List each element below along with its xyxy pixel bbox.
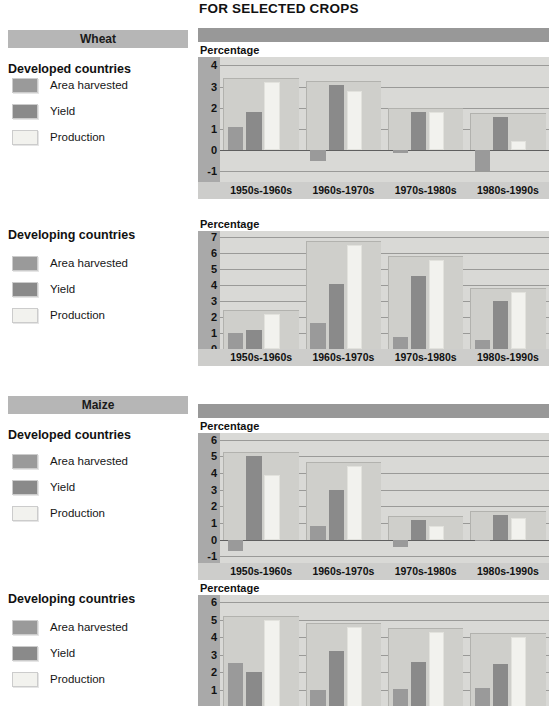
bar-production	[429, 112, 444, 150]
legend-swatch-icon	[12, 646, 38, 661]
bar-area-harvested	[475, 150, 490, 171]
legend-swatch-icon	[12, 672, 38, 687]
country-group-label: Developed countries	[8, 428, 131, 442]
legend-swatch-icon	[12, 454, 38, 469]
legend-swatch-icon	[12, 308, 38, 323]
bar-yield	[246, 456, 261, 539]
x-axis-tick-label: 1970s-1980s	[395, 184, 457, 196]
y-axis-tick-label: 5	[211, 264, 217, 275]
bar-area-harvested	[393, 689, 408, 706]
bar-production	[347, 91, 362, 150]
y-axis-strip: -10123456	[198, 433, 220, 563]
legend-item: Production	[12, 666, 128, 692]
gridline	[220, 237, 549, 238]
chart-block: Percentage-1012341950s-1960s1960s-1970s1…	[198, 28, 549, 199]
legend-label: Production	[50, 507, 105, 519]
y-axis-tick-label: 3	[211, 296, 217, 307]
x-axis-tick-label: 1950s-1960s	[230, 351, 292, 363]
legend-swatch-icon	[12, 506, 38, 521]
bar-production	[264, 314, 279, 349]
y-axis-tick-label: -1	[207, 166, 217, 177]
bar-yield	[493, 301, 508, 349]
bar-production	[429, 632, 444, 706]
bar-production	[511, 518, 526, 540]
x-axis-tick-label: 1970s-1980s	[395, 351, 457, 363]
y-axis-tick-label: 2	[211, 501, 217, 512]
legend-item: Yield	[12, 276, 128, 302]
legend-swatch-icon	[12, 620, 38, 635]
y-axis-title: Percentage	[198, 42, 549, 57]
x-axis-tick-label: 1980s-1990s	[477, 565, 539, 577]
bar-production	[347, 627, 362, 706]
y-axis-title: Percentage	[198, 580, 549, 595]
legend-label: Production	[50, 309, 105, 321]
y-axis-tick-label: 0	[211, 145, 217, 156]
legend-label: Yield	[50, 647, 75, 659]
y-axis-tick-label: 5	[211, 614, 217, 625]
y-axis-tick-label: 1	[211, 328, 217, 339]
x-axis: 1950s-1960s1960s-1970s1970s-1980s1980s-1…	[198, 349, 549, 366]
bar-area-harvested	[310, 526, 325, 540]
plot-area: -10123456	[198, 433, 549, 563]
x-axis-tick-label: 1960s-1970s	[312, 351, 374, 363]
legend-item: Area harvested	[12, 614, 128, 640]
legend-label: Area harvested	[50, 79, 128, 91]
bar-area-harvested	[393, 150, 408, 153]
bar-area-harvested	[310, 323, 325, 349]
x-axis-tick-label: 1980s-1990s	[477, 184, 539, 196]
legend-swatch-icon	[12, 78, 38, 93]
country-group-label: Developing countries	[8, 592, 135, 606]
legend-label: Area harvested	[50, 621, 128, 633]
gridline	[220, 253, 549, 254]
bar-production	[429, 526, 444, 540]
legend-item: Production	[12, 302, 128, 328]
chart-header-bar	[198, 404, 549, 418]
legend: Area harvestedYieldProduction	[12, 250, 128, 328]
bar-area-harvested	[228, 663, 243, 706]
bar-production	[264, 82, 279, 150]
y-axis-tick-label: 6	[211, 248, 217, 259]
legend-label: Yield	[50, 105, 75, 117]
bar-area-harvested	[475, 688, 490, 706]
chart-header-bar	[198, 28, 549, 42]
y-axis-tick-label: 2	[211, 312, 217, 323]
y-axis-tick-label: 0	[211, 344, 217, 350]
y-axis-tick-label: 1	[211, 124, 217, 135]
gridline	[220, 65, 549, 66]
zero-line	[220, 150, 549, 151]
legend-item: Yield	[12, 474, 128, 500]
y-axis-tick-label: 2	[211, 102, 217, 113]
legend-label: Yield	[50, 283, 75, 295]
x-axis-tick-label: 1960s-1970s	[312, 184, 374, 196]
y-axis-tick-label: -1	[207, 551, 217, 562]
bar-area-harvested	[228, 333, 243, 349]
bar-area-harvested	[310, 150, 325, 161]
y-axis-tick-label: 3	[211, 484, 217, 495]
y-axis-tick-label: 4	[211, 60, 217, 71]
x-axis-tick-label: 1960s-1970s	[312, 565, 374, 577]
x-axis-tick-label: 1950s-1960s	[230, 565, 292, 577]
legend-label: Area harvested	[50, 455, 128, 467]
x-axis: 1950s-1960s1960s-1970s1970s-1980s1980s-1…	[198, 182, 549, 199]
gridline	[220, 602, 549, 603]
legend-swatch-icon	[12, 480, 38, 495]
bar-production	[511, 292, 526, 349]
legend-label: Yield	[50, 481, 75, 493]
y-axis-title: Percentage	[198, 216, 549, 231]
chart-block: Percentage123456	[198, 580, 549, 706]
chart-block: Percentage-101234561950s-1960s1960s-1970…	[198, 404, 549, 580]
y-axis-tick-label: 5	[211, 451, 217, 462]
legend-swatch-icon	[12, 282, 38, 297]
crop-band-wheat: Wheat	[8, 30, 188, 48]
plot-area: 123456	[198, 595, 549, 706]
page-root: FOR SELECTED CROPS WheatDeveloped countr…	[0, 0, 549, 706]
legend: Area harvestedYieldProduction	[12, 448, 128, 526]
country-group-label: Developing countries	[8, 228, 135, 242]
legend: Area harvestedYieldProduction	[12, 614, 128, 692]
gridline	[220, 285, 549, 286]
bar-yield	[329, 490, 344, 540]
legend-item: Area harvested	[12, 448, 128, 474]
gridline	[220, 269, 549, 270]
bar-yield	[246, 330, 261, 349]
bar-yield	[493, 664, 508, 706]
